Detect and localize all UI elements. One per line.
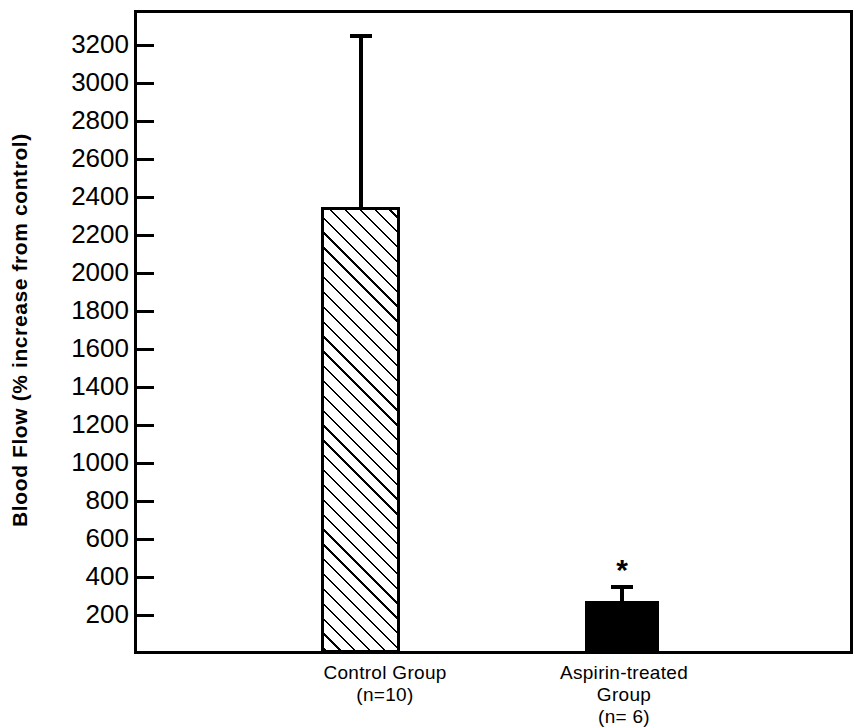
- bar-control-group[interactable]: [321, 207, 400, 654]
- y-tick-3200: [137, 44, 154, 47]
- bar-aspirin-treated-group[interactable]: [585, 601, 659, 653]
- bar-chart-figure: Blood Flow (% increase from control) 320…: [0, 0, 865, 727]
- y-tick-2400: [137, 196, 154, 199]
- y-tick-label-2600: 2600: [71, 145, 129, 171]
- y-tick-2200: [137, 234, 154, 237]
- y-tick-label-3200: 3200: [71, 31, 129, 57]
- error-bar-stem-0: [359, 34, 363, 213]
- y-tick-2000: [137, 272, 154, 275]
- y-axis-tick-labels: 3200300028002600240022002000180016001400…: [0, 0, 129, 727]
- plot-frame: [134, 10, 853, 654]
- y-tick-label-1400: 1400: [71, 373, 129, 399]
- y-tick-label-200: 200: [86, 601, 129, 627]
- x-axis-label-control-group: Control Group (n=10): [255, 662, 515, 706]
- y-tick-label-1800: 1800: [71, 297, 129, 323]
- y-tick-label-800: 800: [86, 487, 129, 513]
- y-tick-label-3000: 3000: [71, 69, 129, 95]
- y-tick-2600: [137, 158, 154, 161]
- y-tick-label-1000: 1000: [71, 449, 129, 475]
- significance-marker: *: [602, 555, 642, 585]
- y-tick-1000: [137, 462, 154, 465]
- y-tick-400: [137, 576, 154, 579]
- y-tick-label-1600: 1600: [71, 335, 129, 361]
- y-tick-label-1200: 1200: [71, 411, 129, 437]
- y-tick-1400: [137, 386, 154, 389]
- y-tick-3000: [137, 82, 154, 85]
- y-tick-600: [137, 538, 154, 541]
- y-tick-1600: [137, 348, 154, 351]
- y-tick-2800: [137, 120, 154, 123]
- error-bar-cap-0: [350, 34, 372, 38]
- y-tick-label-2000: 2000: [71, 259, 129, 285]
- y-tick-label-2200: 2200: [71, 221, 129, 247]
- y-tick-label-2400: 2400: [71, 183, 129, 209]
- y-tick-label-600: 600: [86, 525, 129, 551]
- y-tick-label-2800: 2800: [71, 107, 129, 133]
- y-tick-1800: [137, 310, 154, 313]
- y-tick-200: [137, 614, 154, 617]
- y-tick-800: [137, 500, 154, 503]
- y-tick-1200: [137, 424, 154, 427]
- y-tick-label-400: 400: [86, 563, 129, 589]
- x-axis-label-aspirin-treated-group: Aspirin-treated Group (n= 6): [494, 662, 754, 727]
